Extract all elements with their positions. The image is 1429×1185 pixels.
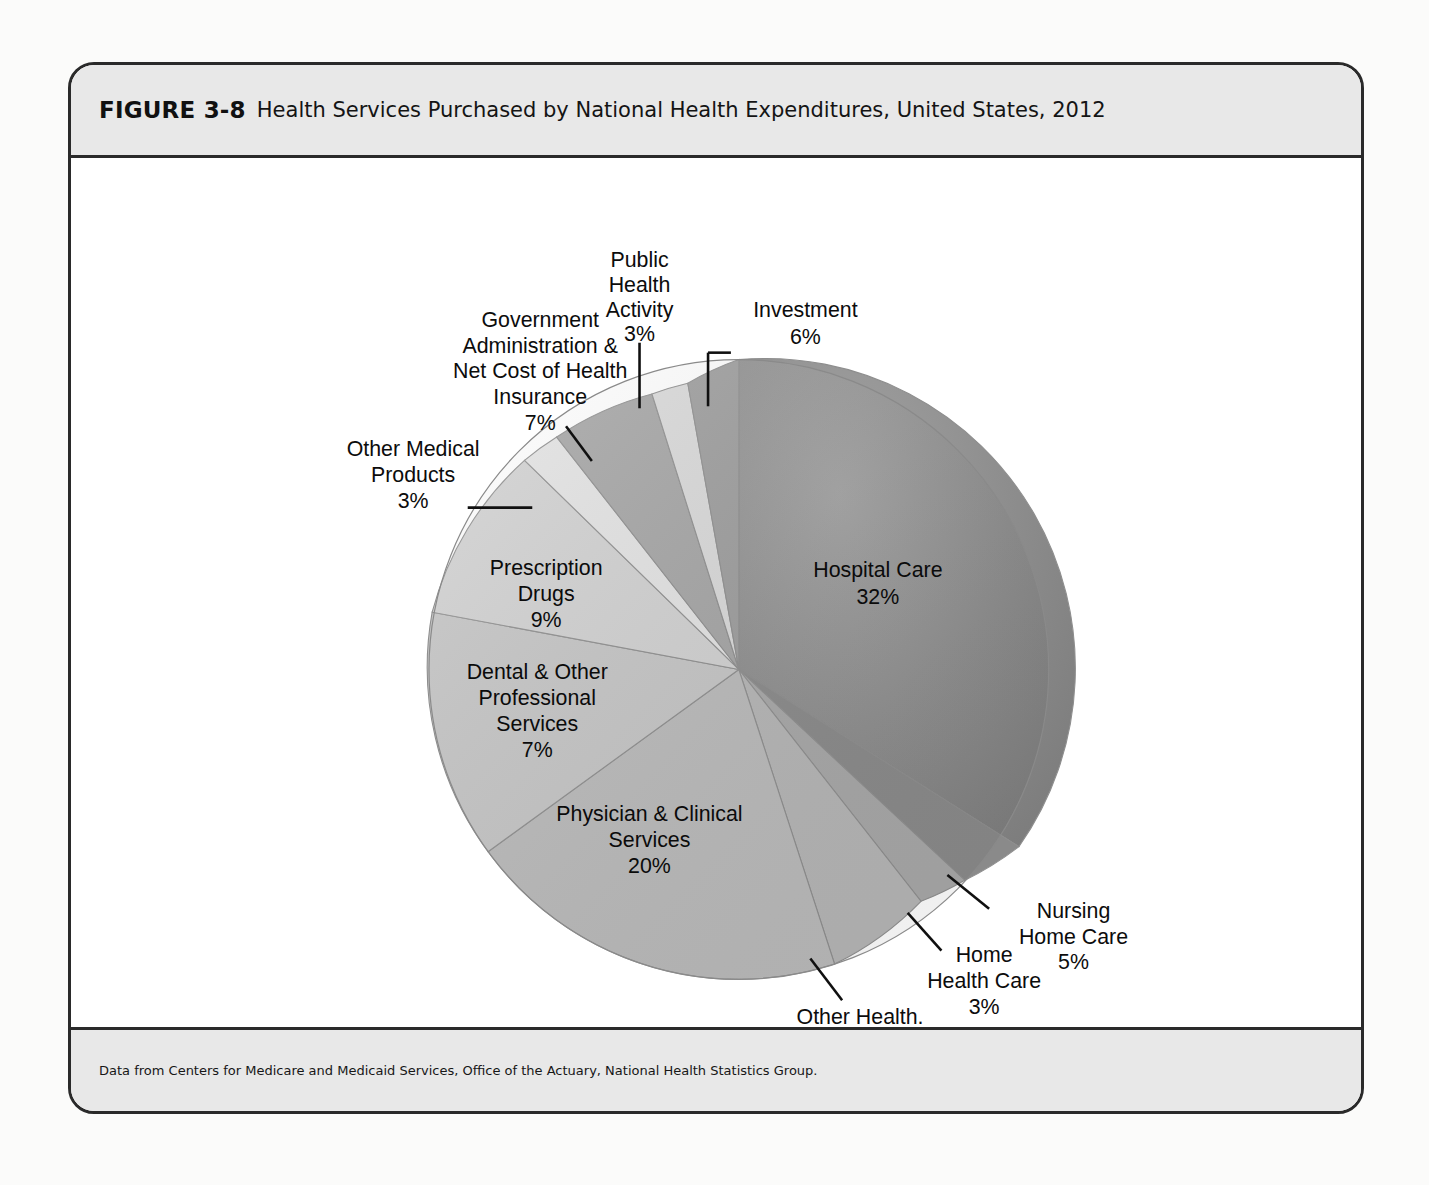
label-hospital-care-line1: Hospital Care <box>813 558 942 582</box>
label-prescription-drugs-line1: Prescription <box>490 556 603 580</box>
label-nursing-home-care-percent: 5% <box>1058 950 1089 974</box>
label-public-health-activity-line3: Activity <box>606 298 674 322</box>
label-government-administration-line3: Net Cost of Health <box>453 359 627 383</box>
pie-chart-svg: Public Health Activity 3% Investment 6% … <box>71 158 1361 1027</box>
label-government-administration-line4: Insurance <box>493 385 587 409</box>
label-public-health-activity-line1: Public <box>610 248 668 272</box>
label-nursing-home-care-line2: Home Care <box>1019 925 1128 949</box>
label-nursing-home-care-line1: Nursing <box>1037 899 1111 923</box>
label-government-administration-line2: Administration & <box>463 334 618 358</box>
label-other-medical-products-line2: Products <box>371 463 455 487</box>
label-dental-other-professional-percent: 7% <box>522 738 553 762</box>
label-dental-other-professional-line3: Services <box>496 712 578 736</box>
label-physician-clinical-percent: 20% <box>628 854 671 878</box>
label-other-medical-products-line1: Other Medical <box>347 437 480 461</box>
label-home-health-care-line1: Home <box>956 943 1013 967</box>
figure-footer: Data from Centers for Medicare and Medic… <box>71 1027 1361 1111</box>
label-public-health-activity-line2: Health <box>609 273 671 297</box>
label-investment-line1: Investment <box>753 298 857 322</box>
label-prescription-drugs-line2: Drugs <box>518 582 575 606</box>
figure-source-note: Data from Centers for Medicare and Medic… <box>99 1063 818 1078</box>
label-dental-other-professional-line1: Dental & Other <box>467 660 608 684</box>
leader-line-home-health-care <box>908 913 942 951</box>
label-home-health-care-line2: Health Care <box>927 969 1041 993</box>
label-government-administration-percent: 7% <box>525 411 556 435</box>
label-prescription-drugs-percent: 9% <box>531 608 562 632</box>
figure-box: FIGURE 3-8 Health Services Purchased by … <box>68 62 1364 1114</box>
figure-title: Health Services Purchased by National He… <box>257 98 1106 122</box>
label-physician-clinical-line1: Physician & Clinical <box>556 802 742 826</box>
pie-chart-area: Public Health Activity 3% Investment 6% … <box>71 158 1361 1027</box>
label-government-administration-line1: Government <box>481 308 599 332</box>
label-home-health-care-percent: 3% <box>969 995 1000 1019</box>
figure-header: FIGURE 3-8 Health Services Purchased by … <box>71 65 1361 158</box>
figure-number-label: FIGURE 3-8 <box>99 97 246 123</box>
label-dental-other-professional-line2: Professional <box>478 686 595 710</box>
label-hospital-care-percent: 32% <box>857 585 900 609</box>
label-public-health-activity-percent: 3% <box>624 322 655 346</box>
label-other-medical-products-percent: 3% <box>398 489 429 513</box>
label-other-health-residential-line1: Other Health. <box>797 1005 924 1027</box>
label-investment-percent: 6% <box>790 325 821 349</box>
label-physician-clinical-line2: Services <box>609 828 691 852</box>
